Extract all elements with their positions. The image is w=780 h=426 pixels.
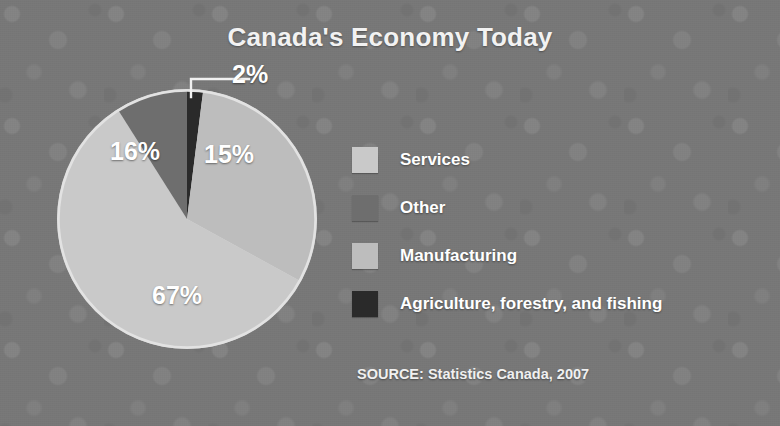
- pie-chart-svg: [54, 86, 320, 352]
- legend-label-manufacturing: Manufacturing: [400, 246, 517, 266]
- legend-label-other: Other: [400, 198, 445, 218]
- pie-label-agriculture: 2%: [232, 60, 268, 89]
- pie-label-services: 67%: [152, 281, 202, 310]
- legend-swatch-other: [352, 195, 378, 221]
- legend-label-services: Services: [400, 150, 470, 170]
- page-title: Canada's Economy Today: [0, 22, 780, 53]
- pie-label-other: 16%: [110, 137, 160, 166]
- legend-swatch-services: [352, 147, 378, 173]
- chart-legend: Services Other Manufacturing Agriculture…: [352, 136, 772, 328]
- legend-label-agriculture: Agriculture, forestry, and fishing: [400, 294, 662, 314]
- chart-canvas: Canada's Economy Today 2% 15% 16% 67% Se…: [0, 0, 780, 426]
- pie-label-manufacturing: 15%: [204, 140, 254, 169]
- legend-item-services[interactable]: Services: [352, 136, 772, 184]
- legend-item-manufacturing[interactable]: Manufacturing: [352, 232, 772, 280]
- legend-item-other[interactable]: Other: [352, 184, 772, 232]
- legend-swatch-manufacturing: [352, 243, 378, 269]
- source-note: SOURCE: Statistics Canada, 2007: [357, 366, 589, 382]
- legend-swatch-agriculture: [352, 291, 378, 317]
- legend-item-agriculture-forestry-and-fishing[interactable]: Agriculture, forestry, and fishing: [352, 280, 772, 328]
- pie-chart: [54, 86, 320, 352]
